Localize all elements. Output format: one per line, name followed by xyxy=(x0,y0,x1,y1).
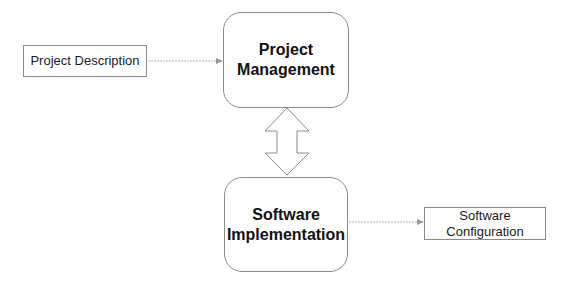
node-label: Project Description xyxy=(30,53,139,69)
node-software-configuration: Software Configuration xyxy=(424,207,546,240)
arrowhead-icon xyxy=(417,219,424,225)
double-arrow-icon xyxy=(265,108,309,175)
arrowhead-icon xyxy=(216,58,223,64)
node-project-management: Project Management xyxy=(223,12,349,108)
node-label: Project Management xyxy=(237,40,335,80)
edge-management-implementation xyxy=(265,108,309,175)
node-project-description: Project Description xyxy=(23,45,147,77)
edge-description-to-management xyxy=(148,58,223,64)
node-label: Software Implementation xyxy=(227,205,345,245)
edge-implementation-to-configuration xyxy=(349,219,424,225)
node-label: Software Configuration xyxy=(446,208,523,240)
node-software-implementation: Software Implementation xyxy=(224,177,348,272)
